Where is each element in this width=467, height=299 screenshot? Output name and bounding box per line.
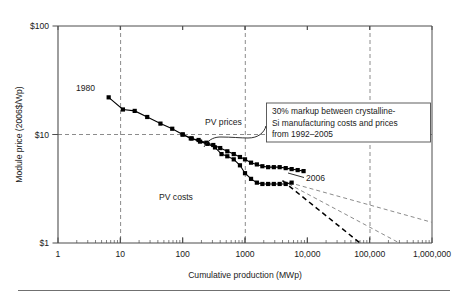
figure-container: 30% markup between crystalline- Si manuf… xyxy=(0,0,467,299)
projection-shallow xyxy=(283,181,432,223)
y-axis-tick-labels: $1$10$100 xyxy=(30,21,49,248)
x-axis-ticks xyxy=(58,238,432,244)
x-axis-ticks-top xyxy=(58,26,432,30)
pv-costs-marker xyxy=(213,145,217,149)
callout-line-3: from 1992–2005 xyxy=(272,129,333,139)
pv-prices-marker xyxy=(272,165,276,169)
pv-prices-marker xyxy=(243,157,247,161)
x-axis-title: Cumulative production (MWp) xyxy=(188,270,302,280)
y-tick-label: $100 xyxy=(30,21,49,31)
x-tick-label: 1,000,000 xyxy=(413,249,451,259)
pv-costs-marker xyxy=(290,181,294,185)
pv-prices-marker xyxy=(284,166,288,170)
x-tick-label: 100,000 xyxy=(354,249,385,259)
pv-prices-marker xyxy=(133,109,137,113)
y-axis-title: Module price (2006$/Wp) xyxy=(14,86,24,183)
projection-lines xyxy=(283,181,432,243)
pv-prices-marker xyxy=(290,167,294,171)
pv-prices-marker xyxy=(232,152,236,156)
pv-prices-marker xyxy=(170,127,174,131)
pv-prices-marker xyxy=(249,161,253,165)
x-tick-label: 10 xyxy=(116,249,126,259)
y-axis-ticks xyxy=(53,26,59,243)
annotation-series-pv-prices: PV prices xyxy=(205,117,242,127)
pv-costs-marker xyxy=(181,132,185,136)
pv-prices-marker xyxy=(107,95,111,99)
pv-costs-marker xyxy=(260,182,264,186)
pv-prices-marker xyxy=(158,122,162,126)
pv-costs-marker xyxy=(225,154,229,158)
pv-costs-marker xyxy=(190,136,194,140)
pv-prices-marker xyxy=(225,149,229,153)
pv-costs-marker xyxy=(238,163,242,167)
y-tick-label: $10 xyxy=(35,130,50,140)
pv-costs-marker xyxy=(249,177,253,181)
pv-costs-marker xyxy=(219,152,223,156)
pv-prices-marker xyxy=(266,165,270,169)
pv-costs-marker xyxy=(243,171,247,175)
pv-prices-marker xyxy=(145,115,149,119)
pv-costs-marker xyxy=(198,140,202,144)
pv-costs-marker xyxy=(232,157,236,161)
pv-prices-marker xyxy=(218,146,222,150)
x-tick-label: 10,000 xyxy=(294,249,321,259)
pv-costs-marker xyxy=(284,182,288,186)
pv-costs-marker xyxy=(255,181,259,185)
leader-2006 xyxy=(288,173,304,178)
annotation-year-2006: 2006 xyxy=(306,173,325,183)
markup-callout-box: 30% markup between crystalline- Si manuf… xyxy=(267,103,431,142)
x-tick-label: 100 xyxy=(175,249,190,259)
callout-line-1: 30% markup between crystalline- xyxy=(272,106,396,116)
x-axis-tick-labels: 110100100010,000100,0001,000,000 xyxy=(56,249,452,259)
pv-prices-marker xyxy=(260,164,264,168)
projection-steep xyxy=(283,181,360,243)
callout-line-2: Si manufacturing costs and prices xyxy=(272,118,398,128)
pv-prices-marker xyxy=(255,162,259,166)
pv-prices-marker xyxy=(278,165,282,169)
experience-curve-chart: 30% markup between crystalline- Si manuf… xyxy=(0,0,467,299)
x-tick-label: 1000 xyxy=(235,249,254,259)
annotation-series-pv-costs: PV costs xyxy=(159,192,193,202)
pv-costs-marker xyxy=(266,182,270,186)
pv-prices-marker xyxy=(121,107,125,111)
x-tick-label: 1 xyxy=(56,249,61,259)
pv-prices-marker xyxy=(296,168,300,172)
pv-prices-marker xyxy=(238,155,242,159)
annotation-year-1980: 1980 xyxy=(76,83,95,93)
y-tick-label: $1 xyxy=(39,238,49,248)
pv-costs-marker xyxy=(278,182,282,186)
projection-medium xyxy=(283,181,400,243)
pv-costs-marker xyxy=(272,182,276,186)
